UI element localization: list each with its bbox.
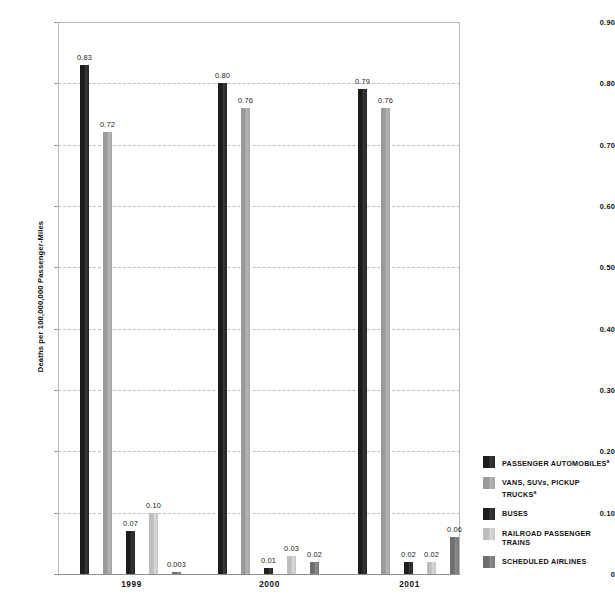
y-tick-label: 0.50 (565, 263, 615, 272)
legend-item[interactable]: RAILROAD PASSENGER TRAINS (483, 528, 613, 548)
legend-item[interactable]: VANS, SUVs, PICKUP TRUCKSa (483, 477, 613, 500)
y-axis-title: Deaths per 100,000,000 Passenger-Miles (36, 187, 45, 407)
legend-label: BUSES (502, 508, 528, 519)
bar-value-label: 0.80 (215, 71, 230, 80)
bar[interactable] (172, 572, 181, 574)
bar[interactable] (287, 556, 296, 574)
bar[interactable] (218, 83, 227, 574)
bar[interactable] (149, 513, 158, 574)
y-tick-label: 0.30 (565, 386, 615, 395)
bar[interactable] (358, 89, 367, 574)
bar-value-label: 0.02 (424, 550, 439, 559)
legend-swatch-icon (483, 456, 495, 468)
legend-swatch-icon (483, 477, 495, 489)
y-tick-label: 0.60 (565, 202, 615, 211)
bar[interactable] (264, 568, 273, 574)
bar-value-label: 0.76 (378, 96, 393, 105)
bar[interactable] (450, 537, 459, 574)
legend-footnote-marker: a (607, 458, 610, 464)
legend-label: PASSENGER AUTOMOBILESa (502, 456, 610, 469)
y-tick-label: 0.80 (565, 79, 615, 88)
bar-value-label: 0.03 (284, 544, 299, 553)
bar-value-label: 0.003 (167, 560, 186, 569)
legend-label: VANS, SUVs, PICKUP TRUCKSa (502, 477, 613, 500)
legend-swatch-icon (483, 528, 495, 540)
bar-value-label: 0.79 (355, 77, 370, 86)
legend-item[interactable]: BUSES (483, 508, 613, 520)
x-group-label-2001: 2001 (399, 580, 420, 589)
legend-swatch-icon (483, 508, 495, 520)
legend-footnote-marker: a (533, 489, 536, 495)
x-axis-baseline (58, 574, 460, 575)
bar[interactable] (126, 531, 135, 574)
bar-value-label: 0.02 (307, 550, 322, 559)
bar-value-label: 0.76 (238, 96, 253, 105)
bar-value-label: 0.83 (77, 53, 92, 62)
bar-value-label: 0.07 (123, 519, 138, 528)
legend-label: SCHEDULED AIRLINES (502, 556, 587, 567)
x-group-label-2000: 2000 (259, 580, 280, 589)
bar-value-label: 0.72 (100, 120, 115, 129)
bar[interactable] (427, 562, 436, 574)
bar[interactable] (103, 132, 112, 574)
legend-swatch-icon (483, 556, 495, 568)
x-group-label-1999: 1999 (121, 580, 142, 589)
bar-value-label: 0.06 (447, 525, 462, 534)
y-tick-label: 0.70 (565, 140, 615, 149)
bars-layer: 0.830.720.070.100.0030.800.760.010.030.0… (58, 22, 460, 574)
bar-value-label: 0.02 (401, 550, 416, 559)
legend-item[interactable]: PASSENGER AUTOMOBILESa (483, 456, 613, 469)
bar[interactable] (241, 108, 250, 574)
bar[interactable] (381, 108, 390, 574)
bar[interactable] (404, 562, 413, 574)
y-tick-label: 0.40 (565, 324, 615, 333)
y-tick-label: 0.90 (565, 18, 615, 27)
bar[interactable] (80, 65, 89, 574)
chart-legend: PASSENGER AUTOMOBILESaVANS, SUVs, PICKUP… (483, 456, 613, 576)
bar[interactable] (310, 562, 319, 574)
legend-label: RAILROAD PASSENGER TRAINS (502, 528, 613, 548)
bar-value-label: 0.10 (146, 501, 161, 510)
y-tick-label: 0.20 (565, 447, 615, 456)
bar-chart: Deaths per 100,000,000 Passenger-Miles 0… (0, 0, 615, 606)
legend-item[interactable]: SCHEDULED AIRLINES (483, 556, 613, 568)
bar-value-label: 0.01 (261, 556, 276, 565)
